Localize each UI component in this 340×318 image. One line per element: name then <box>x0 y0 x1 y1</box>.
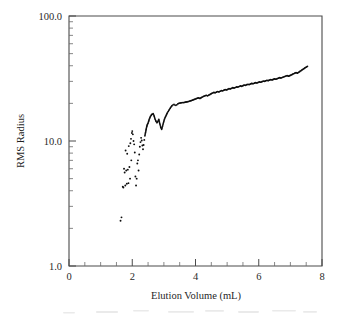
data-point <box>307 65 309 67</box>
data-point <box>143 139 145 141</box>
data-point <box>131 130 133 132</box>
x-tick-label: 6 <box>256 271 261 282</box>
data-point <box>142 148 144 150</box>
scan-artifact <box>303 311 317 313</box>
data-point <box>132 133 134 135</box>
x-axis-title: Elution Volume (mL) <box>151 290 242 302</box>
data-point <box>143 144 145 146</box>
data-point <box>128 182 130 184</box>
scan-artifact <box>96 311 118 313</box>
data-point <box>124 172 126 174</box>
data-point <box>126 153 128 155</box>
data-point <box>134 151 136 153</box>
y-axis-title: RMS Radius <box>15 114 26 168</box>
scan-artifact <box>238 311 259 313</box>
data-point <box>122 187 124 189</box>
data-point <box>121 216 123 218</box>
data-point <box>127 169 129 171</box>
scan-artifact <box>205 310 224 312</box>
data-point <box>136 178 138 180</box>
x-tick-label: 4 <box>193 271 199 282</box>
data-point <box>138 154 140 156</box>
y-tick-label: 100.0 <box>38 11 62 22</box>
data-point <box>135 185 137 187</box>
data-point <box>134 176 136 178</box>
x-tick-label: 2 <box>130 271 135 282</box>
data-point <box>124 185 126 187</box>
x-tick-label: 0 <box>66 271 71 282</box>
data-point <box>130 159 132 161</box>
data-point <box>137 159 139 161</box>
data-point <box>141 140 143 142</box>
y-tick-label: 10.0 <box>44 136 62 147</box>
data-point <box>129 142 131 144</box>
data-point <box>130 138 132 140</box>
data-point <box>128 166 130 168</box>
chart-figure: 1.010.0100.0 02468 Elution Volume (mL) R… <box>0 0 340 318</box>
data-point <box>125 150 127 152</box>
y-tick-label: 1.0 <box>49 261 62 272</box>
data-point <box>120 220 122 222</box>
data-point <box>129 178 131 180</box>
data-point <box>140 141 142 143</box>
data-point <box>139 146 141 148</box>
data-point <box>138 170 140 172</box>
data-point <box>123 168 125 170</box>
scan-artifact <box>272 310 296 312</box>
data-point <box>136 163 138 165</box>
data-point <box>140 137 142 139</box>
x-tick-label: 8 <box>319 271 324 282</box>
data-point <box>128 145 130 147</box>
data-point <box>133 143 135 145</box>
data-point <box>133 140 135 142</box>
scan-artifact <box>63 312 75 313</box>
rms-radius-vs-elution-volume-chart: 1.010.0100.0 02468 Elution Volume (mL) R… <box>0 0 340 318</box>
scan-artifact <box>133 310 149 312</box>
scan-artifact <box>168 311 194 313</box>
data-point <box>125 170 127 172</box>
